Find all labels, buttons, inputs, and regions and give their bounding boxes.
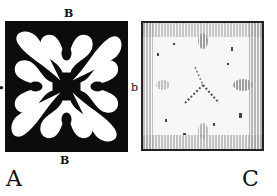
- hatched-ornament-icon: [143, 23, 262, 149]
- caption-a: A: [6, 168, 22, 190]
- edge-label-left: •: [0, 82, 4, 93]
- quatrefoil-ornament-icon: [5, 21, 128, 152]
- edge-label-top: B: [64, 8, 73, 19]
- ornament-tile-a: [5, 21, 128, 152]
- caption-c: C: [242, 168, 259, 190]
- edge-label-bottom: B: [60, 155, 69, 166]
- edge-label-right: b: [131, 82, 138, 93]
- ornament-tile-c: [141, 21, 264, 151]
